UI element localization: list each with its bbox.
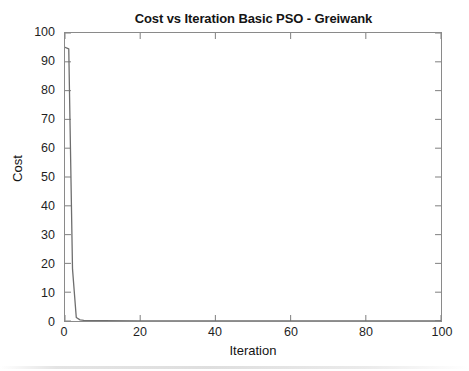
xtick-label-100: 100 [422,325,462,339]
chart-title: Cost vs Iteration Basic PSO - Greiwank [64,11,443,26]
ytick-label-20: 20 [21,257,55,271]
chart-figure: Cost vs Iteration Basic PSO - Greiwank [0,0,469,371]
ytick-label-60: 60 [21,141,55,155]
scan-artifact [0,366,469,369]
ytick-label-90: 90 [21,54,55,68]
xtick-label-40: 40 [195,325,235,339]
xaxis-ticks-top [65,33,441,39]
plot-area [64,32,442,322]
ytick-label-50: 50 [21,170,55,184]
ytick-label-70: 70 [21,112,55,126]
ytick-label-0: 0 [21,315,55,329]
ytick-label-10: 10 [21,286,55,300]
ytick-label-80: 80 [21,83,55,97]
data-series-cost [65,47,441,321]
ytick-label-40: 40 [21,199,55,213]
yaxis-title: Cost [10,129,25,209]
plot-canvas [65,33,441,321]
ytick-label-30: 30 [21,228,55,242]
yaxis-ticks-right [435,33,441,321]
xtick-label-80: 80 [346,325,386,339]
yaxis-ticks-left [65,33,71,321]
xtick-label-0: 0 [44,325,84,339]
ytick-label-100: 100 [21,25,55,39]
xaxis-title: Iteration [64,343,442,358]
xtick-label-60: 60 [271,325,311,339]
xtick-label-20: 20 [120,325,160,339]
